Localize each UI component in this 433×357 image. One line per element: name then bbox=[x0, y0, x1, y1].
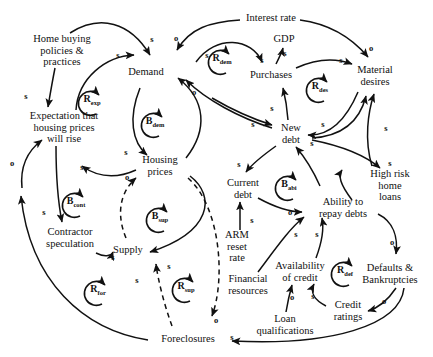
causal-links bbox=[21, 20, 404, 342]
loop-label-r-sup: Rsup bbox=[178, 281, 195, 295]
loop-subscript: des bbox=[319, 86, 328, 93]
polarity-mark-s: s bbox=[310, 139, 313, 148]
polarity-mark-s: s bbox=[283, 49, 286, 58]
loop-subscript: sup bbox=[185, 286, 195, 293]
loop-label-b-cont: Bcont bbox=[67, 196, 86, 210]
delayed-causal-links bbox=[121, 178, 220, 326]
polarity-mark-o: o bbox=[290, 293, 294, 302]
link-expectation-to-contractor bbox=[56, 146, 62, 222]
link-highrisk-arc-up bbox=[340, 170, 352, 200]
link-policies-to-expectation bbox=[48, 68, 55, 107]
loop-subscript: def bbox=[344, 270, 353, 277]
loop-label-b-sup: Bsup bbox=[152, 211, 168, 225]
link-defaults-to-foreclosures bbox=[232, 288, 404, 342]
polarity-mark-s: s bbox=[237, 160, 240, 169]
loop-label-r-exp: Rexp bbox=[84, 94, 101, 108]
polarity-mark-s: s bbox=[251, 120, 254, 129]
polarity-mark-o: o bbox=[214, 316, 218, 325]
link-foreclosures-to-supply-delayed bbox=[156, 264, 172, 326]
loop-label-b-abi: Babi bbox=[281, 179, 296, 193]
link-interest-to-demand bbox=[177, 20, 240, 50]
polarity-mark-o: o bbox=[10, 159, 14, 168]
polarity-mark-s: s bbox=[124, 148, 127, 157]
polarity-mark-s: s bbox=[321, 120, 324, 129]
loop-label-b-dem: Bdem bbox=[146, 116, 165, 130]
loop-letter: B bbox=[152, 210, 159, 221]
polarity-mark-s: s bbox=[80, 163, 83, 172]
loop-subscript: sup bbox=[158, 216, 168, 223]
link-purchases-to-newdebt bbox=[212, 98, 272, 125]
loop-letter: B bbox=[281, 178, 288, 189]
loop-label-r-for: Rfor bbox=[90, 284, 106, 298]
polarity-mark-s: s bbox=[260, 56, 263, 65]
link-purchases-to-gdp bbox=[276, 48, 283, 64]
link-lower-left-to-expectation bbox=[22, 140, 42, 188]
link-housingprices-to-foreclosures-delayed bbox=[188, 178, 219, 316]
link-newdebt-to-purchases bbox=[283, 88, 288, 120]
link-highrisk-to-material bbox=[368, 94, 374, 166]
polarity-mark-o: o bbox=[192, 88, 196, 97]
loop-arrows bbox=[62, 50, 352, 305]
link-policies-to-demand bbox=[70, 23, 150, 55]
link-ability-to-newdebt bbox=[296, 147, 320, 186]
loop-subscript: dem bbox=[152, 121, 164, 128]
loop-label-r-des: Rdes bbox=[312, 81, 328, 95]
link-newdebt-to-currentdebt bbox=[246, 146, 276, 172]
polarity-mark-s: s bbox=[388, 159, 391, 168]
link-material-to-newdebt bbox=[308, 92, 358, 135]
polarity-mark-s: s bbox=[384, 124, 387, 133]
polarity-mark-o: o bbox=[382, 297, 386, 306]
polarity-mark-s: s bbox=[135, 276, 138, 285]
link-foreclosures-to-expectation bbox=[21, 196, 148, 340]
loop-subscript: exp bbox=[91, 99, 101, 106]
link-interest-right bbox=[300, 20, 368, 57]
polarity-mark-s: s bbox=[167, 262, 170, 271]
polarity-mark-s: s bbox=[339, 56, 342, 65]
polarity-mark-s: s bbox=[311, 292, 314, 301]
polarity-mark-s: s bbox=[116, 51, 119, 60]
polarity-mark-s: s bbox=[150, 35, 153, 44]
loop-subscript: for bbox=[97, 289, 105, 296]
polarity-mark-s: s bbox=[294, 230, 297, 239]
loop-letter: B bbox=[67, 195, 74, 206]
polarity-mark-o: o bbox=[288, 208, 292, 217]
loop-letter: B bbox=[146, 115, 153, 126]
polarity-mark-s: s bbox=[230, 333, 233, 342]
polarity-mark-s: s bbox=[24, 92, 27, 101]
polarity-mark-s: s bbox=[205, 51, 208, 60]
link-supply-to-housingprices-delayed bbox=[121, 178, 136, 238]
link-ability-to-defaults bbox=[378, 214, 396, 254]
loop-subscript: cont bbox=[73, 201, 85, 208]
polarity-mark-s: s bbox=[270, 104, 273, 113]
polarity-mark-s: s bbox=[111, 253, 114, 262]
loop-subscript: dem bbox=[220, 58, 232, 65]
causal-loop-diagram: Home buying policies & practices Expecta… bbox=[0, 0, 433, 357]
polarity-mark-s: s bbox=[42, 208, 45, 217]
polarity-mark-o: o bbox=[390, 238, 394, 247]
loop-label-r-def: Rdef bbox=[337, 265, 353, 279]
link-purchases-to-material bbox=[296, 60, 352, 68]
polarity-mark-s: s bbox=[315, 230, 318, 239]
loop-label-r-dem: Rdem bbox=[212, 53, 231, 67]
polarity-mark-o: o bbox=[125, 173, 129, 182]
polarity-mark-s: s bbox=[250, 216, 253, 225]
polarity-mark-o: o bbox=[369, 44, 373, 53]
loop-subscript: abi bbox=[288, 184, 297, 191]
link-currentdebt-to-ability bbox=[258, 198, 302, 212]
link-financial-to-ability bbox=[258, 217, 304, 272]
polarity-mark-o: o bbox=[174, 34, 178, 43]
